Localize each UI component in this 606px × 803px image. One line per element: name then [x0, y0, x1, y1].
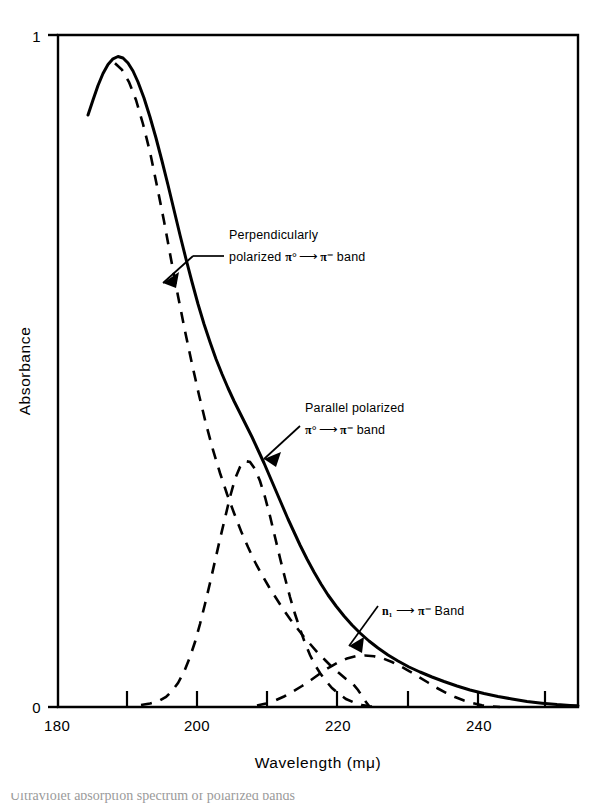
annotation-parallel-sym2: π⁻: [340, 423, 353, 437]
annotation-n-to-pi-sym1: n₁: [382, 604, 393, 618]
annotation-parallel-arrow: ⟶: [319, 423, 338, 437]
annotation-perpendicular-line2: polarized π°⟶π⁻ band: [229, 250, 365, 264]
figure-caption-strip: Ultraviolet absorption spectrum of polar…: [0, 793, 606, 803]
x-tick-label-240: 240: [466, 717, 492, 734]
curve-n-to-pi-band: [257, 656, 500, 708]
x-tick-label-180: 180: [44, 717, 70, 734]
y-axis-ticks: [48, 35, 58, 707]
annotation-n-to-pi-suffix: Band: [431, 604, 465, 618]
x-axis-title: Wavelength (mμ): [255, 754, 382, 771]
curve-perpendicular-band: [115, 63, 369, 706]
annotation-n-to-pi-line1: n₁⟶π⁻ Band: [382, 604, 465, 618]
curve-observed-total: [88, 57, 578, 706]
figure-container: 180 200 220 240 0 1 Wavelength (mμ) Abso…: [0, 0, 606, 803]
annotation-parallel-line2: π°⟶π⁻ band: [305, 423, 385, 437]
figure-caption: Ultraviolet absorption spectrum of polar…: [10, 793, 295, 803]
annotation-n-to-pi-sym2: π⁻: [418, 604, 431, 618]
annotation-perpendicular-suffix: band: [333, 250, 365, 264]
annotation-parallel-sym1: π°: [305, 423, 317, 437]
annotation-perpendicular-sym2: π⁻: [320, 250, 333, 264]
leader-parallel-band: [264, 426, 300, 467]
curve-parallel-band: [141, 461, 380, 707]
annotation-parallel-suffix: band: [353, 423, 385, 437]
y-tick-label-0: 0: [32, 699, 41, 716]
absorbance-spectrum-chart: 180 200 220 240 0 1 Wavelength (mμ) Abso…: [0, 0, 606, 803]
annotation-perpendicular-prefix: polarized: [229, 250, 285, 264]
annotation-perpendicular-line1: Perpendicularly: [229, 228, 319, 242]
plot-frame: [58, 35, 578, 707]
x-tick-label-220: 220: [325, 717, 351, 734]
y-axis-title: Absorbance: [16, 327, 33, 416]
annotation-perpendicular-sym1: π°: [285, 250, 297, 264]
y-tick-label-1: 1: [32, 28, 41, 45]
annotation-parallel-line1: Parallel polarized: [305, 401, 405, 415]
x-tick-label-200: 200: [184, 717, 210, 734]
annotation-perpendicular-arrow: ⟶: [299, 250, 318, 264]
annotation-n-to-pi-arrow: ⟶: [396, 604, 415, 618]
